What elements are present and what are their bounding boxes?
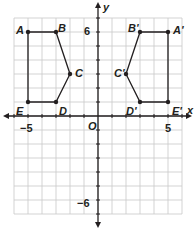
x-axis-label: x [186, 104, 194, 116]
vertex-label: E [16, 105, 24, 117]
vertex-point [26, 100, 30, 104]
vertex-label: C' [114, 67, 125, 79]
vertex-label: B' [128, 22, 139, 34]
tick-label-x-neg5: −5 [20, 122, 33, 134]
pentagon-abcde [28, 32, 70, 102]
vertex-point [26, 30, 30, 34]
vertex-label: B [58, 22, 66, 34]
y-axis-label: y [102, 1, 110, 13]
vertex-point [68, 72, 72, 76]
vertex-label: D [59, 105, 67, 117]
coordinate-plane: −5 5 6 −6 O x y ABCDEA'B'C'D'E' [0, 0, 195, 229]
x-axis-left-arrow-icon [3, 113, 9, 119]
vertex-point [166, 100, 170, 104]
y-axis-up-arrow-icon [95, 2, 101, 8]
vertex-label: E' [172, 105, 182, 117]
tick-label-y-neg6: −6 [77, 197, 90, 209]
y-axis-down-arrow-icon [95, 222, 101, 228]
tick-label-x-5: 5 [165, 122, 171, 134]
pentagon-image [126, 32, 168, 102]
vertex-label: C [75, 67, 84, 79]
vertex-point [138, 100, 142, 104]
vertex-point [166, 30, 170, 34]
tick-label-y-6: 6 [84, 25, 90, 37]
vertex-label: A [15, 24, 24, 36]
vertex-label: A' [172, 24, 184, 36]
vertex-point [54, 100, 58, 104]
axes [3, 2, 192, 228]
vertex-label: D' [126, 105, 137, 117]
origin-label: O [88, 120, 97, 132]
